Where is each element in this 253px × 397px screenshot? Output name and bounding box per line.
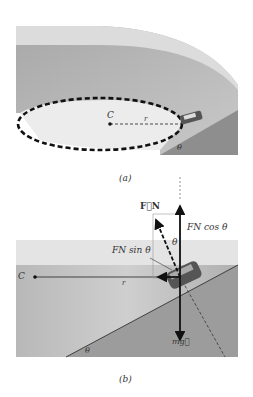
radius-label-a: r — [144, 115, 147, 123]
center-point-a — [108, 122, 112, 126]
angle-label-top: θ — [172, 237, 177, 247]
normal-sin-label: FN sin θ — [112, 245, 151, 255]
banked-curve-diagram — [0, 0, 253, 397]
angle-label-bottom: θ — [85, 346, 90, 355]
panel-b — [16, 177, 238, 357]
normal-force-label: F⃗N — [140, 201, 160, 211]
radius-label-b: r — [122, 279, 125, 287]
center-label-a: C — [107, 110, 114, 120]
angle-label-a: θ — [177, 143, 182, 152]
normal-cos-label: FN cos θ — [187, 222, 227, 232]
caption-a: (a) — [119, 173, 131, 183]
center-label-b: C — [18, 271, 25, 281]
center-point-b — [33, 275, 37, 279]
weight-label: mg⃗ — [172, 337, 190, 346]
panel-a — [16, 26, 238, 155]
caption-b: (b) — [119, 374, 132, 384]
